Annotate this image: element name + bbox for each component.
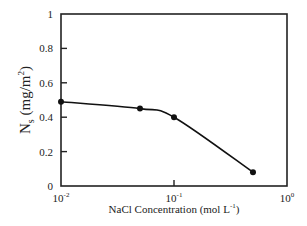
y-tick-label: 0 — [48, 180, 54, 192]
data-point — [58, 99, 64, 105]
x-tick-label: 100 — [280, 191, 295, 204]
plot-frame — [61, 14, 287, 186]
chart: 00.20.40.60.81 10-210-1100 Ns (mg/m2) Na… — [0, 0, 307, 226]
y-axis-label: Ns (mg/m2) — [16, 66, 36, 134]
data-point — [137, 106, 143, 112]
x-tick-label: 10-2 — [53, 191, 70, 204]
x-axis-ticks: 10-210-1100 — [53, 180, 295, 204]
y-tick-label: 0.8 — [39, 42, 53, 54]
x-axis-label: NaCl Concentration (mol L-1) — [109, 202, 240, 216]
data-point — [171, 114, 177, 120]
data-point — [250, 169, 256, 175]
y-tick-label: 1 — [48, 8, 54, 20]
y-tick-label: 0.6 — [39, 77, 53, 89]
y-tick-label: 0.2 — [39, 146, 53, 158]
y-tick-label: 0.4 — [39, 111, 53, 123]
series-curve — [61, 102, 253, 173]
